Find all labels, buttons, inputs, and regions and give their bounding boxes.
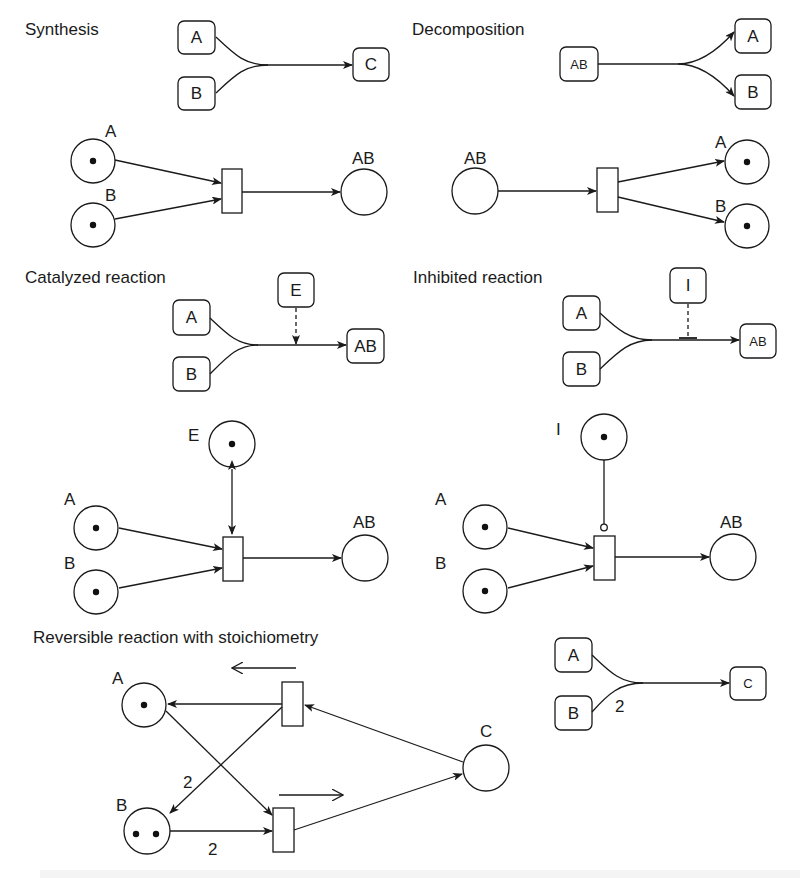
arc bbox=[115, 199, 221, 219]
place-label: C bbox=[480, 722, 492, 741]
place-label: B bbox=[715, 197, 726, 216]
species-label: E bbox=[290, 281, 301, 300]
merge-curve bbox=[216, 65, 268, 93]
arc bbox=[508, 566, 593, 588]
species-label: A bbox=[747, 27, 759, 46]
token bbox=[482, 524, 488, 530]
species-label: C bbox=[743, 676, 752, 691]
token bbox=[744, 223, 750, 229]
species-label: A bbox=[576, 304, 588, 323]
species-label: A bbox=[568, 646, 580, 665]
species-label: AB bbox=[570, 57, 587, 72]
token bbox=[90, 222, 96, 228]
place-c bbox=[463, 745, 509, 791]
place-label: AB bbox=[352, 149, 375, 168]
token bbox=[153, 831, 159, 837]
transition bbox=[597, 168, 618, 212]
token bbox=[744, 159, 750, 165]
decomposition-petri-net: AB A B bbox=[452, 133, 769, 248]
place-ab bbox=[342, 535, 388, 581]
merge-curve bbox=[210, 345, 258, 374]
inhibitor-arc-end-circle bbox=[601, 524, 608, 531]
panel-inhibited: Inhibited reaction I A B AB I A B bbox=[413, 268, 776, 613]
panel-title-inhibited: Inhibited reaction bbox=[413, 268, 542, 287]
arc-weighted bbox=[170, 707, 282, 813]
transition bbox=[223, 537, 243, 581]
place-label: E bbox=[188, 426, 199, 445]
token bbox=[93, 525, 99, 531]
token bbox=[93, 589, 99, 595]
arc bbox=[115, 160, 221, 183]
species-label: A bbox=[186, 308, 198, 327]
species-label: I bbox=[686, 276, 691, 295]
species-label: B bbox=[576, 360, 587, 379]
transition bbox=[222, 169, 242, 213]
split-curve bbox=[678, 32, 734, 64]
place-label: B bbox=[116, 796, 127, 815]
arc bbox=[618, 161, 724, 182]
cropped-caption-edge bbox=[40, 870, 800, 878]
merge-curve bbox=[216, 37, 268, 65]
merge-curve bbox=[210, 318, 258, 345]
arc bbox=[508, 528, 593, 548]
synthesis-scheme: A B C bbox=[178, 21, 389, 110]
panel-decomposition: Decomposition AB A B AB A B bbox=[412, 19, 771, 248]
token bbox=[90, 158, 96, 164]
species-label: B bbox=[747, 83, 758, 102]
arc-weight-label: 2 bbox=[183, 773, 192, 792]
arc bbox=[119, 568, 222, 588]
reversible-scheme: A B 2 C bbox=[555, 638, 766, 730]
place-label: AB bbox=[464, 149, 487, 168]
species-label: B bbox=[568, 704, 579, 723]
inhibited-petri-net: I A B AB bbox=[435, 414, 756, 613]
catalyzed-petri-net: E A B AB bbox=[64, 421, 388, 614]
place-label: A bbox=[715, 133, 727, 152]
token bbox=[141, 702, 147, 708]
place-label: A bbox=[112, 669, 124, 688]
place-label: I bbox=[556, 420, 561, 439]
panel-title-reversible: Reversible reaction with stoichiometry bbox=[33, 628, 319, 647]
merge-curve bbox=[600, 313, 652, 340]
token bbox=[601, 434, 607, 440]
arc bbox=[294, 774, 462, 830]
species-label: A bbox=[191, 28, 203, 47]
catalyzed-scheme: E A B AB bbox=[173, 273, 384, 391]
place-label: B bbox=[105, 186, 116, 205]
place-ab bbox=[341, 169, 387, 215]
place-label: A bbox=[435, 490, 447, 509]
panel-catalyzed: Catalyzed reaction E A B AB E A B bbox=[25, 268, 388, 614]
reversible-petri-net: A B C 2 2 bbox=[112, 668, 509, 859]
stoichiometry-label: 2 bbox=[615, 697, 624, 716]
petri-net-figure: Synthesis A B C A B AB bbox=[0, 0, 801, 878]
panel-reversible: Reversible reaction with stoichiometry A… bbox=[33, 628, 766, 859]
arc bbox=[119, 528, 222, 549]
panel-synthesis: Synthesis A B C A B AB bbox=[25, 20, 389, 247]
merge-curve bbox=[600, 340, 652, 369]
transition-backward bbox=[282, 682, 303, 726]
token bbox=[482, 588, 488, 594]
species-label: B bbox=[191, 84, 202, 103]
arc bbox=[618, 197, 724, 222]
panel-title-decomposition: Decomposition bbox=[412, 20, 524, 39]
transition bbox=[594, 536, 615, 580]
arc-weight-label: 2 bbox=[208, 840, 217, 859]
token bbox=[229, 441, 235, 447]
panel-title-catalyzed: Catalyzed reaction bbox=[25, 268, 166, 287]
place-label: B bbox=[64, 554, 75, 573]
panel-title-synthesis: Synthesis bbox=[25, 20, 99, 39]
place-label: AB bbox=[353, 513, 376, 532]
transition-forward bbox=[273, 808, 294, 852]
inhibited-scheme: I A B AB bbox=[563, 268, 776, 386]
place-label: AB bbox=[720, 513, 743, 532]
merge-curve bbox=[592, 655, 643, 683]
token bbox=[133, 831, 139, 837]
place-ab bbox=[710, 534, 756, 580]
place-ab bbox=[452, 168, 498, 214]
arc bbox=[166, 711, 272, 815]
species-label: C bbox=[365, 55, 377, 74]
species-label: AB bbox=[749, 334, 766, 349]
synthesis-petri-net: A B AB bbox=[71, 122, 387, 247]
decomposition-scheme: AB A B bbox=[560, 19, 771, 109]
species-label: AB bbox=[354, 337, 377, 356]
species-label: B bbox=[186, 365, 197, 384]
